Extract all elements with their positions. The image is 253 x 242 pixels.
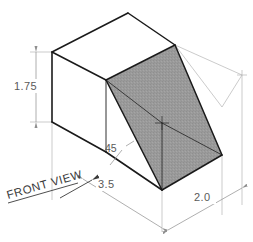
height-dimension-label: 1.75: [14, 80, 37, 92]
depth-dimension-label: 2.0: [194, 191, 211, 203]
isometric-drawing-svg: 1.75 3.5 2.0 45 FRONT VIEW: [0, 0, 253, 242]
length-dimension-label: 3.5: [98, 178, 115, 190]
technical-drawing-canvas: 1.75 3.5 2.0 45 FRONT VIEW: [0, 0, 253, 242]
angle-label: 45: [105, 142, 117, 154]
